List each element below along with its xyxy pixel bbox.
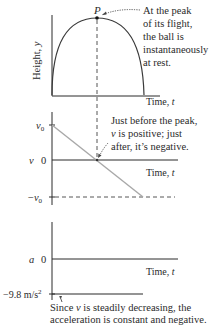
velocity-graph: v0 v 0 −v0 Time, t Just before the peak,… (28, 112, 197, 205)
height-x-label: Time, t (146, 96, 175, 107)
svg-text:At the peak: At the peak (143, 5, 192, 16)
svg-text:Since v is steadily decreasing: Since v is steadily decreasing, the (50, 302, 191, 313)
height-y-label: Height, y (31, 41, 42, 80)
svg-text:of its flight,: of its flight, (143, 18, 192, 29)
motion-graphs-diagram: P Height, y Time, t At the peak of its f… (0, 0, 212, 326)
peak-label: P (93, 4, 101, 16)
crossing-annotation: Just before the peak, v is positive; jus… (111, 115, 197, 152)
svg-text:v is positive; just: v is positive; just (111, 128, 182, 139)
height-graph: P Height, y Time, t At the peak of its f… (31, 4, 209, 107)
velocity-var-label: v (29, 155, 34, 166)
svg-text:at rest.: at rest. (143, 57, 171, 68)
arrowhead-icon (102, 12, 107, 16)
tick-label-zero: 0 (41, 155, 46, 166)
svg-text:Just before the peak,: Just before the peak, (111, 115, 197, 126)
acceleration-graph: a 0 −9.8 m/s2 Time, t Since v is steadil… (3, 222, 207, 325)
height-parabola (52, 18, 144, 95)
svg-text:acceleration is constant and n: acceleration is constant and negative. (50, 314, 207, 325)
velocity-x-label: Time, t (146, 167, 175, 178)
peak-annotation-arrow (102, 10, 140, 15)
accel-x-label: Time, t (146, 266, 175, 277)
peak-point (95, 16, 99, 20)
zero-crossing-point (96, 159, 99, 162)
svg-text:the ball is: the ball is (143, 31, 184, 42)
tick-label-v0: v0 (36, 120, 45, 133)
tick-label-zero: 0 (41, 254, 46, 265)
arrowhead-icon (98, 154, 102, 159)
svg-text:instantaneously: instantaneously (143, 44, 209, 55)
tick-label-neg-v0: −v0 (28, 192, 43, 205)
accel-var-label: a (29, 254, 34, 265)
svg-text:after, it’s negative.: after, it’s negative. (111, 141, 189, 152)
peak-annotation: At the peak of its flight, the ball is i… (143, 5, 209, 68)
accel-annotation: Since v is steadily decreasing, the acce… (50, 302, 207, 325)
tick-label-accel: −9.8 m/s2 (3, 288, 42, 300)
